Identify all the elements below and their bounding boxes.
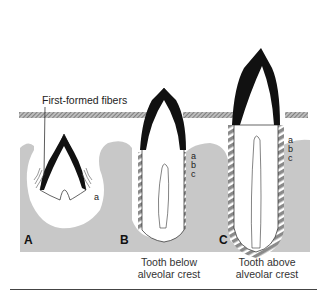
- panel-label-b: B: [120, 233, 129, 247]
- fiber-labels-c: a b c: [288, 135, 293, 163]
- callout-label: First-formed fibers: [42, 94, 127, 106]
- caption-b-block: Tooth below alveolar crest: [124, 256, 214, 280]
- fiber-label-a-panel-a: a: [94, 192, 99, 202]
- caption-c-line1: Tooth above: [222, 256, 312, 268]
- tooth-eruption-diagram: First-formed fibers a a b c a b c A B C: [0, 0, 326, 291]
- panel-label-a: A: [24, 233, 33, 247]
- caption-c-block: Tooth above alveolar crest: [222, 256, 312, 280]
- tooth-b: [138, 88, 186, 242]
- caption-b-line1: Tooth below: [124, 256, 214, 268]
- fiber-labels-b: a b c: [191, 151, 196, 179]
- panel-label-c: C: [219, 233, 228, 247]
- svg-text:c: c: [191, 169, 196, 179]
- tooth-a: [34, 134, 92, 200]
- caption-b-line2: alveolar crest: [124, 268, 214, 280]
- svg-text:c: c: [288, 153, 293, 163]
- caption-c-line2: alveolar crest: [222, 268, 312, 280]
- tooth-c: [228, 48, 284, 258]
- bottom-rule: [10, 289, 317, 290]
